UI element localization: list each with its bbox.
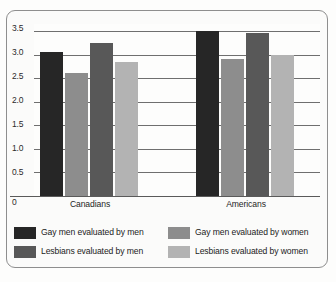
y-tick-label: 1.5 — [12, 120, 34, 129]
y-tick-label: 3.0 — [12, 48, 34, 57]
legend-item-label: Lesbians evaluated by women — [195, 245, 308, 258]
bar — [90, 43, 113, 196]
chart-legend: Gay men evaluated by men Lesbians evalua… — [14, 226, 322, 264]
y-tick-label: 1.0 — [12, 144, 34, 153]
bar — [40, 52, 63, 196]
bar — [115, 62, 138, 196]
x-category-label-americans: Americans — [196, 199, 296, 209]
y-tick-label: 0 — [12, 198, 34, 207]
legend-item-label: Gay men evaluated by men — [41, 226, 144, 239]
legend-swatch-icon — [14, 227, 36, 239]
legend-item-label: Lesbians evaluated by men — [41, 245, 143, 258]
x-axis-line — [10, 196, 320, 197]
chart-figure: 3.5 3.0 2.5 2.0 1.5 1.0 0.5 0 Canadians … — [0, 0, 336, 282]
y-tick-label: 0.5 — [12, 168, 34, 177]
bar — [221, 59, 244, 196]
legend-swatch-icon — [168, 246, 190, 258]
bar — [271, 55, 294, 196]
legend-item-label: Gay men evaluated by women — [195, 226, 308, 239]
legend-swatch-icon — [14, 246, 36, 258]
bar — [246, 33, 269, 196]
legend-swatch-icon — [168, 227, 190, 239]
bar — [65, 73, 88, 196]
y-tick-label: 2.0 — [12, 96, 34, 105]
gridline — [34, 31, 320, 32]
x-category-label-canadians: Canadians — [40, 199, 140, 209]
bar — [196, 31, 219, 196]
plot-area — [34, 24, 320, 196]
y-tick-label: 2.5 — [12, 72, 34, 81]
y-tick-label: 3.5 — [12, 24, 34, 33]
